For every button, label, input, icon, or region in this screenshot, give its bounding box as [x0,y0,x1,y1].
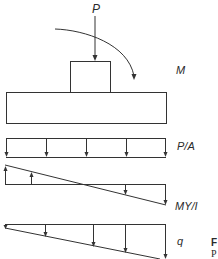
footing-stress-diagram [0,0,218,259]
caption-fragment-line1: F [211,238,217,248]
label-load-p: P [92,3,100,15]
axial-stress-diagram [5,138,168,158]
column-stub [71,62,111,93]
label-axial-stress: P/A [177,141,195,152]
bending-stress-diagram [4,165,168,205]
label-moment-m: M [176,65,185,76]
label-bending-stress: MY/I [175,201,198,212]
footing-slab [7,93,167,124]
label-resultant-pressure: q [177,236,183,247]
load-arrow-p [93,16,98,61]
moment-arrow-m [55,29,137,80]
resultant-pressure-diagram [4,224,168,259]
caption-fragment-line2: P [211,249,217,259]
